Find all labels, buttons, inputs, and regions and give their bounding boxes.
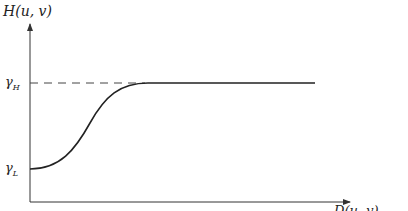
y-axis-label: H(u, v) <box>3 3 52 19</box>
gamma-l-label: γL <box>5 160 18 178</box>
diagram-canvas <box>0 0 408 211</box>
x-axis-label: D(u, v) <box>334 203 379 211</box>
gamma-h-label: γH <box>5 74 20 92</box>
transfer-curve <box>30 83 315 169</box>
